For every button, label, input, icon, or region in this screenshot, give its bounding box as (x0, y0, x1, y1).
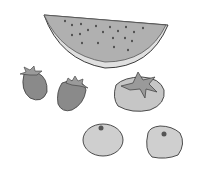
watermelon-slice (44, 15, 168, 68)
strawberry-left (20, 66, 47, 100)
persimmon (114, 72, 164, 111)
strawberry-right (58, 76, 89, 111)
fruit-illustration (0, 0, 199, 170)
mandarin-right (147, 126, 183, 158)
mandarin-left (83, 124, 123, 156)
